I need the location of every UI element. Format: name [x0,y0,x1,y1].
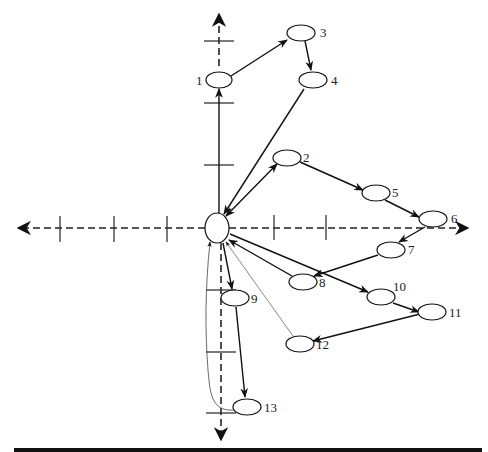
node-12-label: 12 [316,337,329,352]
node-6-label: 6 [451,211,458,226]
node-12[interactable] [286,336,314,352]
edge-9-13 [236,307,245,397]
node-center[interactable] [205,213,229,243]
node-13-label: 13 [264,400,277,415]
node-3[interactable] [287,25,315,41]
node-8-label: 8 [319,275,326,290]
node-1-label: 1 [196,73,203,88]
node-6[interactable] [419,211,447,227]
node-3-label: 3 [320,25,327,40]
node-10[interactable] [367,289,395,305]
edge-1-3 [231,40,287,76]
edge-5-6 [385,200,419,217]
node-11-label: 11 [449,305,462,320]
edge-10-11 [393,303,419,312]
node-2-label: 2 [303,150,310,165]
edge-6-7 [399,227,425,242]
node-13[interactable] [233,399,261,415]
node-11[interactable] [418,304,446,320]
node-8[interactable] [289,274,317,290]
bottom-rule [14,448,482,452]
node-1[interactable] [206,72,232,88]
edge-11-12 [313,314,420,341]
node-7[interactable] [377,242,405,258]
edge-3-4 [305,41,311,70]
edges [206,40,425,410]
edge-0-9 [223,243,232,289]
node-5-label: 5 [392,185,399,200]
graph-diagram: 1 2 3 4 5 6 7 8 9 10 11 12 13 [0,0,488,452]
node-10-label: 10 [393,279,406,294]
edge-2-5 [300,162,363,190]
edge-13-0 [206,242,234,410]
node-4-label: 4 [331,73,338,88]
node-2[interactable] [273,150,301,166]
node-5[interactable] [362,185,390,201]
node-7-label: 7 [408,242,415,257]
node-9[interactable] [221,290,249,306]
node-4[interactable] [299,72,327,88]
axis-ticks [60,41,326,413]
edge-8-0 [229,240,292,276]
node-9-label: 9 [251,291,258,306]
